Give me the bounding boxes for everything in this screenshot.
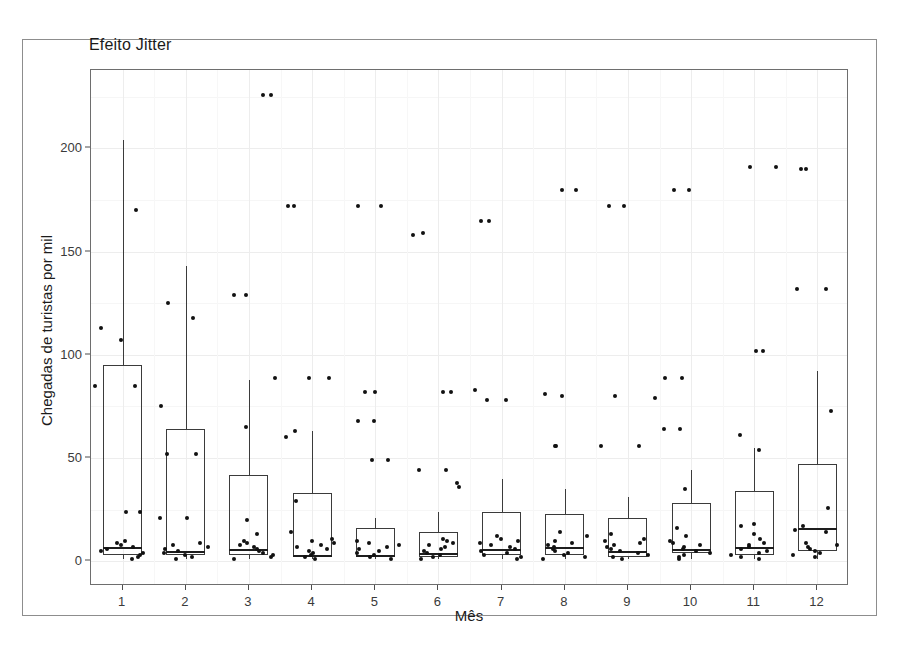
outlier-point — [473, 388, 477, 392]
outlier-point — [99, 326, 103, 330]
jitter-point — [668, 539, 672, 543]
outlier-point — [159, 404, 163, 408]
jitter-point — [611, 555, 615, 559]
outlier-point — [273, 376, 277, 380]
x-tick-label-4: 4 — [291, 594, 331, 609]
x-tick-label-7: 7 — [481, 594, 521, 609]
outlier-point — [613, 394, 617, 398]
jitter-point — [431, 555, 435, 559]
outlier-point — [795, 287, 799, 291]
jitter-point — [311, 551, 315, 555]
jitter-point — [163, 547, 167, 551]
jitter-point — [682, 545, 686, 549]
gridline-minor-x-0 — [154, 70, 155, 584]
jitter-point — [443, 545, 447, 549]
jitter-point — [752, 532, 756, 536]
jitter-point — [232, 557, 236, 561]
jitter-point — [482, 553, 486, 557]
jitter-point — [739, 524, 743, 528]
whisker-upper — [438, 512, 439, 533]
jitter-point — [183, 553, 187, 557]
outlier-point — [417, 468, 421, 472]
jitter-point — [357, 547, 361, 551]
x-tick-mark-3 — [248, 585, 249, 590]
x-tick-mark-2 — [185, 585, 186, 590]
outlier-point — [244, 425, 248, 429]
outlier-point — [158, 516, 162, 520]
jitter-point — [105, 547, 109, 551]
jitter-point — [552, 545, 556, 549]
jitter-point — [372, 553, 376, 557]
jitter-point — [479, 549, 483, 553]
jitter-point — [367, 541, 371, 545]
jitter-point — [677, 555, 681, 559]
jitter-point — [541, 557, 545, 561]
x-tick-label-9: 9 — [607, 594, 647, 609]
jitter-point — [190, 555, 194, 559]
gridline-minor-x-7 — [596, 70, 597, 584]
jitter-point — [115, 541, 119, 545]
whisker-lower — [123, 555, 124, 559]
whisker-lower — [438, 557, 439, 559]
outlier-point — [504, 398, 508, 402]
jitter-point — [553, 539, 557, 543]
whisker-upper — [754, 448, 755, 491]
jitter-point — [185, 516, 189, 520]
jitter-point — [174, 557, 178, 561]
jitter-point — [729, 553, 733, 557]
outlier-point — [441, 390, 445, 394]
outlier-point — [370, 458, 374, 462]
jitter-point — [245, 518, 249, 522]
jitter-point — [176, 549, 180, 553]
jitter-point — [694, 549, 698, 553]
gridline-minor-x-2 — [281, 70, 282, 584]
jitter-point — [791, 553, 795, 557]
x-tick-mark-5 — [374, 585, 375, 590]
jitter-point — [332, 541, 336, 545]
whisker-upper — [565, 489, 566, 514]
x-tick-mark-10 — [690, 585, 691, 590]
outlier-point — [293, 429, 297, 433]
outlier-point — [292, 204, 296, 208]
outlier-point — [599, 444, 603, 448]
x-tick-mark-6 — [437, 585, 438, 590]
box-iqr — [103, 365, 142, 555]
outlier-point — [574, 188, 578, 192]
jitter-point — [439, 547, 443, 551]
outlier-point — [294, 499, 298, 503]
jitter-point — [806, 545, 810, 549]
jitter-point — [762, 541, 766, 545]
whisker-upper — [186, 266, 187, 429]
gridline-minor-x-6 — [533, 70, 534, 584]
y-tick-label-100: 100 — [36, 346, 82, 361]
outlier-point — [232, 293, 236, 297]
jitter-point — [752, 522, 756, 526]
gridline-x-5 — [375, 70, 376, 584]
gridline-y-0 — [91, 561, 847, 562]
outlier-point — [165, 452, 169, 456]
outlier-point — [444, 468, 448, 472]
outlier-point — [373, 390, 377, 394]
box-iqr — [798, 464, 837, 551]
jitter-point — [319, 543, 323, 547]
jitter-point — [757, 551, 761, 555]
median-line — [608, 551, 647, 553]
y-tick-label-0: 0 — [36, 553, 82, 568]
jitter-point — [698, 543, 702, 547]
x-tick-label-8: 8 — [544, 594, 584, 609]
outlier-point — [748, 165, 752, 169]
outlier-point — [244, 293, 248, 297]
outlier-point — [824, 287, 828, 291]
outlier-point — [363, 390, 367, 394]
jitter-point — [558, 530, 562, 534]
jitter-point — [124, 510, 128, 514]
y-tick-label-150: 150 — [36, 243, 82, 258]
jitter-point — [261, 551, 265, 555]
jitter-point — [307, 549, 311, 553]
jitter-point — [194, 452, 198, 456]
outlier-point — [738, 433, 742, 437]
jitter-point — [516, 539, 520, 543]
jitter-point — [585, 534, 589, 538]
jitter-point — [313, 557, 317, 561]
outlier-point — [138, 510, 142, 514]
